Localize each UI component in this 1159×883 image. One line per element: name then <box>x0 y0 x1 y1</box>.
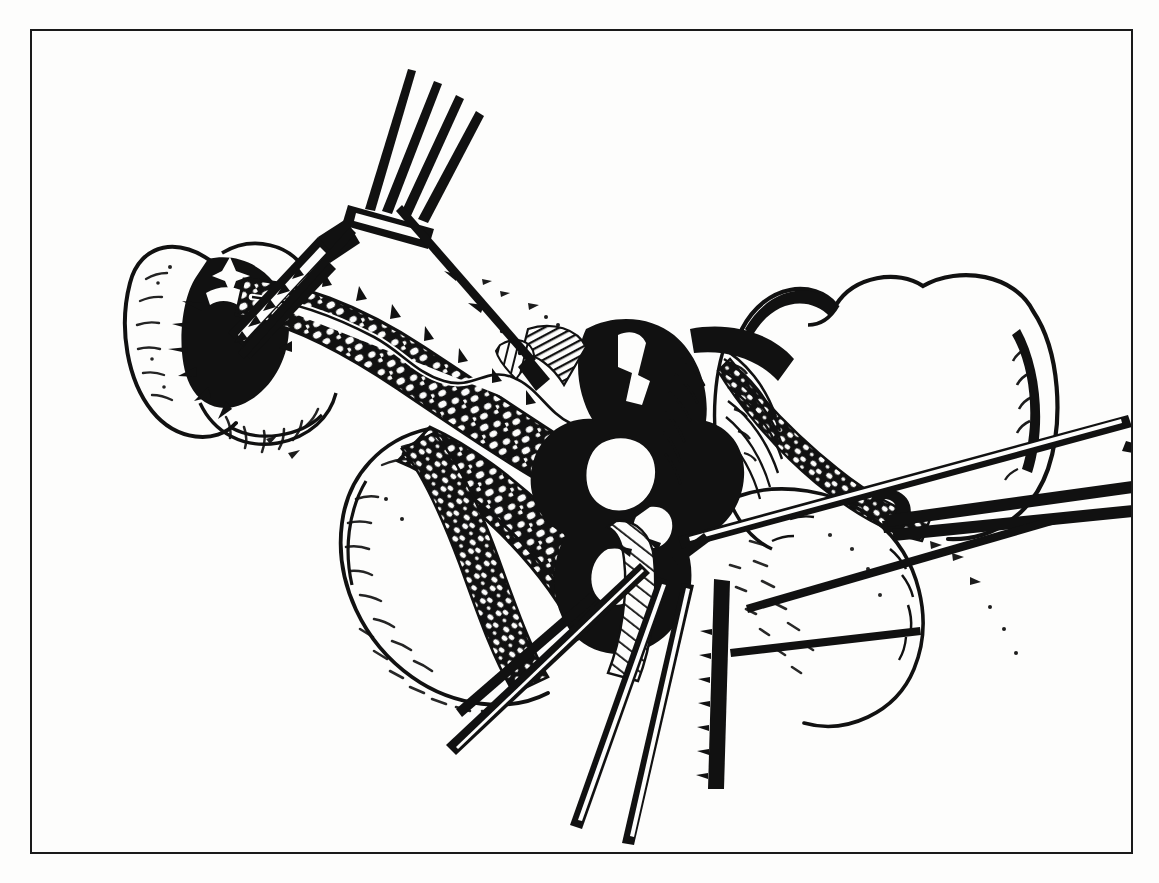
page-root: the lesser sac is entered and the poster… <box>0 0 1159 883</box>
illustration-border <box>30 29 1133 854</box>
